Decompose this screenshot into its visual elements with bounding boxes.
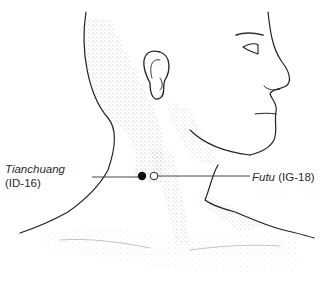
anatomy-illustration <box>0 0 327 287</box>
futu-name: Futu <box>252 171 275 183</box>
outlines <box>20 12 314 250</box>
tianchuang-label: Tianchuang (ID-16) <box>5 162 65 190</box>
futu-point-marker <box>150 172 158 180</box>
futu-label: Futu (IG-18) <box>252 170 315 184</box>
tianchuang-code: (ID-16) <box>5 176 65 190</box>
futu-code: (IG-18) <box>278 171 314 183</box>
tianchuang-name: Tianchuang <box>5 162 65 176</box>
shading <box>40 18 300 272</box>
tianchuang-point-marker <box>138 172 146 180</box>
